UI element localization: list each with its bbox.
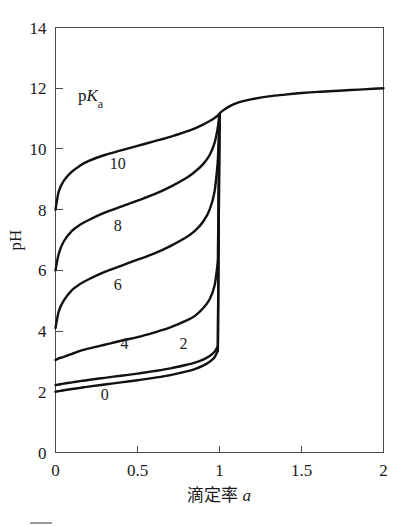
curve-label-pka-2: 2: [179, 335, 187, 352]
curve-pka-8: [56, 128, 218, 271]
curve-label-pka-8: 8: [114, 217, 122, 234]
x-tick-label: 0.5: [127, 461, 148, 480]
y-tick-label: 6: [38, 261, 47, 280]
caption-strip: [0, 512, 400, 526]
curve-pka-6: [56, 161, 218, 328]
curve-merged-tail: [220, 88, 384, 114]
data-curves: [56, 88, 384, 392]
y-tick-label: 2: [38, 383, 47, 402]
x-axis-title: 滴定率 a: [187, 486, 251, 505]
y-tick-label: 12: [30, 79, 47, 98]
curve-pka-4: [56, 261, 218, 360]
curve-label-pka-4: 4: [120, 335, 128, 352]
caption-rule: [30, 522, 52, 524]
y-tick-label: 4: [38, 322, 47, 341]
curve-label-pka-6: 6: [114, 276, 122, 293]
y-axis-tick-labels: 02468101214: [30, 19, 48, 463]
curve-label-pka-10: 10: [110, 155, 126, 172]
y-tick-label: 0: [38, 444, 47, 463]
curve-pka-10: [56, 116, 218, 210]
curve-series-labels: 1086420: [101, 155, 188, 404]
x-tick-label: 0: [51, 461, 60, 480]
x-axis-ticks: [138, 446, 302, 453]
x-axis-tick-labels: 00.511.52: [51, 461, 388, 480]
legend-title-pka: pKa: [78, 86, 104, 111]
x-tick-label: 2: [379, 461, 388, 480]
x-tick-label: 1: [215, 461, 224, 480]
curve-label-pka-0: 0: [101, 386, 109, 403]
y-tick-label: 10: [30, 140, 47, 159]
curve-jump-pka-0: [218, 114, 220, 351]
y-axis-ticks: [56, 88, 63, 392]
curve-pka-0: [56, 351, 218, 392]
y-axis-title: pH: [6, 230, 25, 251]
titration-curve-figure: 02468101214 00.511.52 1086420 pKa 滴定率 a …: [0, 0, 400, 526]
chart-canvas: 02468101214 00.511.52 1086420 pKa 滴定率 a …: [0, 0, 400, 526]
x-tick-label: 1.5: [291, 461, 312, 480]
y-tick-label: 14: [30, 19, 48, 38]
y-tick-label: 8: [38, 201, 47, 220]
